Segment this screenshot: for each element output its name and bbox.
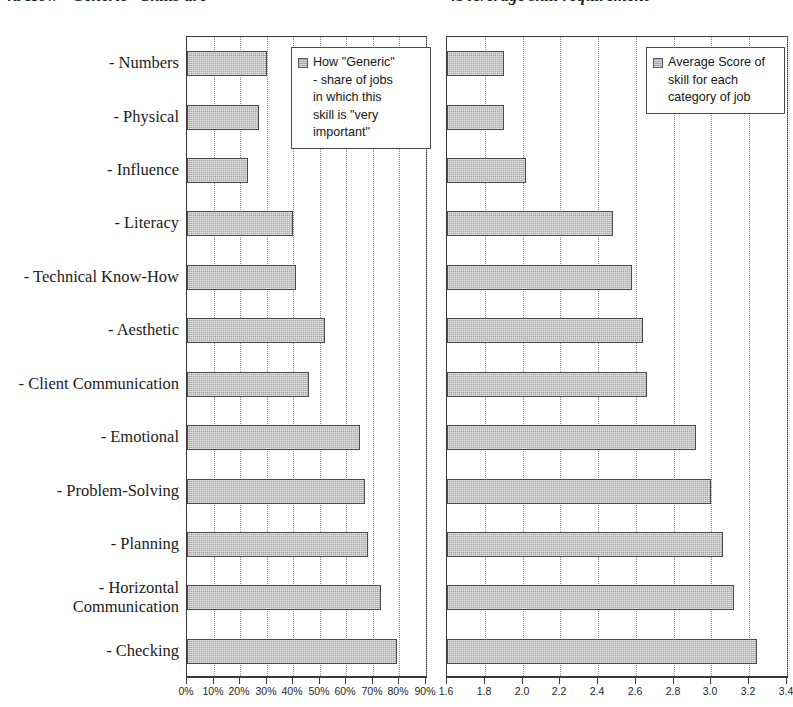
gridline [711, 37, 712, 676]
gridline [674, 37, 675, 676]
x-axis-ticks-right: 1.61.82.02.22.42.62.83.03.23.4 [446, 677, 788, 707]
axis-tick-label: 3.0 [703, 685, 718, 697]
axis-tick [446, 677, 447, 684]
axis-tick [292, 677, 293, 684]
axis-tick-label: 60% [334, 685, 355, 697]
bar-generic-share [187, 51, 267, 76]
category-label: - Problem-Solving [0, 481, 182, 500]
bar-generic-share [187, 479, 365, 504]
category-label: - Planning [0, 534, 182, 553]
gridline [560, 37, 561, 676]
bar-average-score [447, 479, 711, 504]
legend-swatch-generic [298, 58, 308, 68]
axis-tick-label: 40% [281, 685, 302, 697]
gridline [523, 37, 524, 676]
category-label: - Aesthetic [0, 320, 182, 339]
bar-generic-share [187, 211, 293, 236]
axis-tick-label: 2.2 [552, 685, 567, 697]
chart-title-right: 4b Average skill requirement [448, 0, 649, 6]
bar-generic-share [187, 532, 368, 557]
bar-average-score [447, 532, 723, 557]
axis-tick [186, 677, 187, 684]
bar-generic-share [187, 639, 397, 664]
axis-tick [673, 677, 674, 684]
axis-tick-label: 90% [414, 685, 435, 697]
bar-generic-share [187, 425, 360, 450]
axis-tick-label: 1.8 [477, 685, 492, 697]
category-label: - Influence [0, 160, 182, 179]
axis-tick-label: 0% [178, 685, 193, 697]
gridline [749, 37, 750, 676]
gridline [485, 37, 486, 676]
category-label: - Numbers [0, 53, 182, 72]
gridline [787, 37, 788, 676]
legend-label-average: Average Score of skill for each category… [668, 54, 765, 107]
category-axis-labels: - Numbers- Physical- Influence- Literacy… [0, 36, 182, 677]
axis-tick [597, 677, 598, 684]
legend-swatch-average [653, 58, 663, 68]
axis-tick [398, 677, 399, 684]
axis-tick [710, 677, 711, 684]
gridline [214, 37, 215, 676]
axis-tick-label: 3.2 [741, 685, 756, 697]
category-label: - Checking [0, 641, 182, 660]
bar-average-score [447, 585, 734, 610]
bar-generic-share [187, 372, 309, 397]
axis-tick [786, 677, 787, 684]
axis-tick-label: 2.6 [628, 685, 643, 697]
axis-tick [372, 677, 373, 684]
category-label: - Literacy [0, 213, 182, 232]
bar-generic-share [187, 105, 259, 130]
legend-generic-skills: How "Generic" - share of jobs in which t… [291, 47, 431, 149]
axis-tick [345, 677, 346, 684]
bar-generic-share [187, 265, 296, 290]
axis-tick [635, 677, 636, 684]
chart-title-left: 4a How "Generic" Skills are [4, 0, 207, 6]
bar-average-score [447, 211, 613, 236]
category-label: - Emotional [0, 427, 182, 446]
category-label: - Technical Know-How [0, 267, 182, 286]
bar-generic-share [187, 318, 325, 343]
bar-generic-share [187, 585, 381, 610]
axis-tick [559, 677, 560, 684]
axis-tick [239, 677, 240, 684]
axis-tick [522, 677, 523, 684]
chart-titles: 4a How "Generic" Skills are 4b Average s… [0, 0, 791, 22]
bar-average-score [447, 158, 526, 183]
axis-tick-label: 2.0 [515, 685, 530, 697]
axis-tick [425, 677, 426, 684]
gridline [267, 37, 268, 676]
legend-label-generic: How "Generic" - share of jobs in which t… [313, 54, 395, 142]
x-axis-ticks-left: 0%10%20%30%40%50%60%70%80%90% [186, 677, 427, 707]
bar-average-score [447, 425, 696, 450]
legend-average-score: Average Score of skill for each category… [646, 47, 785, 114]
gridline [636, 37, 637, 676]
axis-tick-label: 80% [387, 685, 408, 697]
axis-tick [266, 677, 267, 684]
axis-tick-label: 2.4 [590, 685, 605, 697]
gridline [240, 37, 241, 676]
bar-average-score [447, 105, 504, 130]
bar-average-score [447, 51, 504, 76]
category-label: - Client Communication [0, 374, 182, 393]
category-label: - Physical [0, 107, 182, 126]
axis-tick-label: 70% [361, 685, 382, 697]
chart-plot-average-requirement [446, 36, 788, 677]
bar-average-score [447, 372, 647, 397]
axis-tick-label: 20% [228, 685, 249, 697]
axis-tick-label: 1.6 [439, 685, 454, 697]
axis-tick-label: 10% [202, 685, 223, 697]
bar-average-score [447, 318, 643, 343]
axis-tick-label: 50% [308, 685, 329, 697]
axis-tick-label: 30% [255, 685, 276, 697]
axis-tick [748, 677, 749, 684]
bar-generic-share [187, 158, 248, 183]
bar-average-score [447, 639, 757, 664]
axis-tick-label: 3.4 [779, 685, 793, 697]
axis-tick-label: 2.8 [666, 685, 681, 697]
axis-tick [213, 677, 214, 684]
bar-average-score [447, 265, 632, 290]
category-label: - Horizontal Communication [0, 578, 182, 616]
axis-tick [319, 677, 320, 684]
axis-tick [484, 677, 485, 684]
